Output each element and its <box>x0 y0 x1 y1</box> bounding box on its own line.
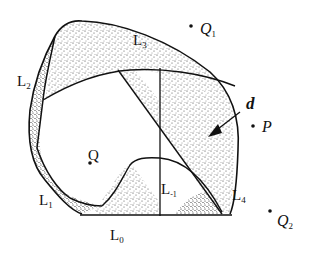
label-L-1: L-1 <box>161 181 177 199</box>
label-Q2: Q2 <box>277 212 293 231</box>
label-Q1: Q1 <box>200 20 216 39</box>
point-P <box>251 124 255 128</box>
label-P: P <box>261 118 272 135</box>
label-L4: L4 <box>232 187 246 205</box>
diagram-canvas: L3 L2 L1 L0 L-1 L4 Q1 P Q2 Q d <box>0 0 309 253</box>
label-L1: L1 <box>39 192 53 210</box>
point-Q1 <box>189 24 193 28</box>
label-L0: L0 <box>110 227 124 245</box>
point-Q2 <box>268 209 272 213</box>
label-L2: L2 <box>17 73 31 91</box>
label-Q: Q <box>88 147 99 163</box>
label-d: d <box>246 94 255 113</box>
